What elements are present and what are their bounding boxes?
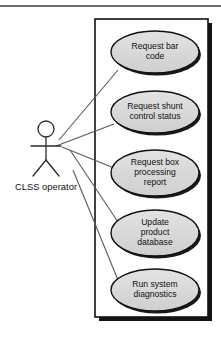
use-case-diagram-page: CLSS operator Request barcodeRequest shu… bbox=[0, 0, 221, 337]
actor-leg-left bbox=[33, 160, 46, 176]
use-case-label-update-product-database: Update bbox=[141, 217, 169, 227]
use-case-label-request-box-processing-report: report bbox=[144, 177, 167, 187]
use-case-label-request-bar-code: code bbox=[146, 51, 165, 61]
use-case-label-request-shunt-control-status: Request shunt bbox=[127, 101, 183, 111]
actor-label: CLSS operator bbox=[15, 181, 77, 192]
use-case-label-update-product-database: database bbox=[137, 237, 173, 247]
actor-leg-right bbox=[46, 160, 59, 176]
use-case-label-run-system-diagnostics: Run system bbox=[132, 279, 177, 289]
use-case-diagram: CLSS operator Request barcodeRequest shu… bbox=[0, 0, 221, 337]
actor-clss-operator: CLSS operator bbox=[15, 121, 77, 192]
use-case-label-request-shunt-control-status: control status bbox=[129, 111, 180, 121]
use-case-label-run-system-diagnostics: diagnostics bbox=[134, 289, 177, 299]
use-case-label-request-box-processing-report: processing bbox=[134, 167, 176, 177]
actor-head bbox=[38, 121, 54, 137]
use-case-label-update-product-database: product bbox=[141, 227, 170, 237]
use-case-label-request-box-processing-report: Request box bbox=[131, 157, 180, 167]
use-case-label-request-bar-code: Request bar bbox=[132, 41, 179, 51]
